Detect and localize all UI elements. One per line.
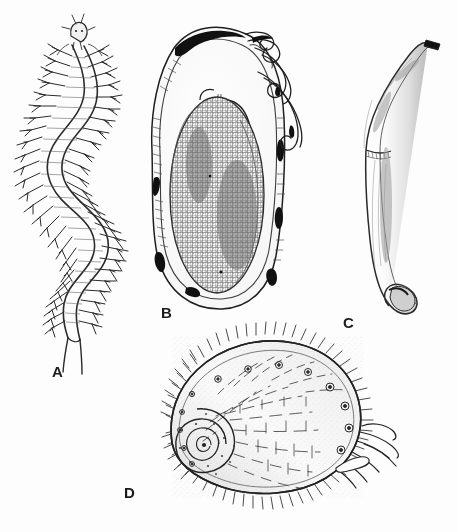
specimen-d-limpet-shell <box>161 322 398 509</box>
plate-drawing <box>0 0 457 532</box>
panel-label-a: A <box>52 364 63 379</box>
illustration-plate: A B C D <box>0 0 457 532</box>
panel-label-b: B <box>161 305 172 320</box>
panel-label-c: C <box>343 315 354 330</box>
panel-label-d: D <box>124 485 135 500</box>
